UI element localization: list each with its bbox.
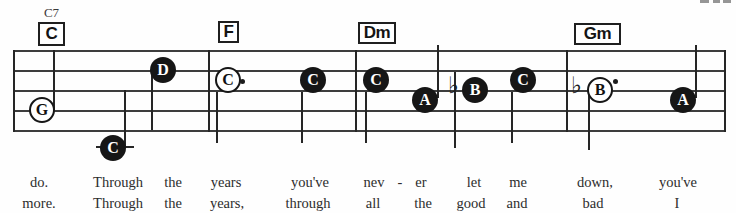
flat-icon: ♭ — [448, 74, 459, 97]
lyric-word: you've — [659, 175, 697, 191]
note: C — [300, 67, 326, 93]
note: D — [150, 57, 176, 83]
lyric-word: good — [457, 196, 486, 212]
note: G — [29, 97, 55, 123]
note: B — [462, 77, 488, 103]
lyric-word: bad — [583, 196, 604, 212]
lyric-word: through — [285, 196, 330, 212]
lyric-word: years, — [210, 196, 244, 212]
lyric-word: more. — [22, 196, 55, 212]
lyric-word: me — [509, 175, 527, 191]
note-stem — [511, 92, 513, 143]
lyric-word: I — [675, 196, 680, 212]
lyric-word: Through — [93, 175, 143, 191]
lyric-word: let — [467, 175, 482, 191]
staff-line — [13, 130, 725, 132]
note-stem — [53, 50, 55, 110]
note-stem — [437, 45, 439, 98]
flat-icon: ♭ — [571, 74, 582, 97]
barline — [13, 50, 15, 132]
staff-line — [13, 110, 725, 112]
chord-superscript: C7 — [38, 6, 65, 19]
sheet-music-page: GCDCCCA♭BC♭BAC7CFDmGmdo.Throughtheyearsy… — [0, 0, 736, 213]
page-corner-mark — [713, 0, 720, 3]
note: C — [510, 67, 536, 93]
note: A — [670, 87, 696, 113]
lyric-word: the — [164, 196, 182, 212]
note-stem — [124, 90, 126, 146]
chord-box: Dm — [358, 22, 396, 44]
chord-box: C — [38, 22, 65, 46]
note: A — [412, 87, 438, 113]
note: C — [363, 67, 389, 93]
page-corner-mark — [700, 0, 709, 3]
lyric-word: you've — [291, 175, 329, 191]
barline — [208, 50, 210, 132]
score-stage: GCDCCCA♭BC♭BAC7CFDmGmdo.Throughtheyearsy… — [0, 0, 736, 213]
lyric-word: the — [414, 196, 432, 212]
barline — [566, 50, 568, 132]
lyric-word: - — [398, 175, 403, 191]
lyric-word: and — [507, 196, 528, 212]
barline — [724, 50, 726, 132]
note-stem — [365, 92, 367, 143]
note-stem — [588, 95, 590, 150]
chord-box: F — [218, 21, 239, 43]
note-stem — [216, 92, 218, 143]
page-corner-mark — [723, 0, 731, 3]
note-stem — [301, 92, 303, 143]
staff-line — [13, 50, 725, 52]
lyric-word: all — [366, 196, 381, 212]
chord-box: Gm — [574, 23, 621, 45]
note: C — [100, 135, 126, 161]
note: B — [587, 77, 613, 103]
lyric-word: do. — [30, 175, 48, 191]
lyric-word: Through — [93, 196, 143, 212]
lyric-word: er — [415, 175, 426, 191]
lyric-word: nev — [364, 175, 385, 191]
dot-icon — [240, 79, 245, 84]
lyric-word: years — [211, 175, 242, 191]
dot-icon — [613, 79, 618, 84]
lyric-word: the — [164, 175, 182, 191]
barline — [355, 50, 357, 132]
note-stem — [695, 45, 697, 98]
note: C — [215, 67, 241, 93]
lyric-word: down, — [577, 175, 613, 191]
